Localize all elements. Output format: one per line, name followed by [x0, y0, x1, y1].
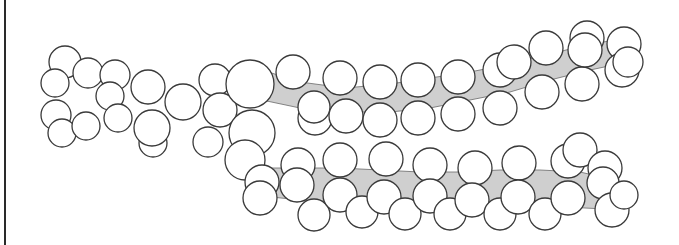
atom-sphere [502, 146, 536, 180]
atom-sphere [401, 101, 435, 135]
atom-sphere [413, 148, 447, 182]
molecule-diagram [0, 0, 679, 245]
atom-sphere [41, 69, 69, 97]
atom-sphere [369, 142, 403, 176]
atom-sphere [525, 75, 559, 109]
atom-sphere [441, 97, 475, 131]
atom-sphere [529, 31, 563, 65]
atom-sphere [134, 110, 170, 146]
atom-sphere [226, 60, 274, 108]
atom-sphere [323, 143, 357, 177]
atom-sphere [568, 33, 602, 67]
atom-sphere [458, 151, 492, 185]
space-filling-model [0, 0, 679, 245]
atom-sphere [298, 91, 330, 123]
atom-sphere [565, 67, 599, 101]
atom-sphere [401, 63, 435, 97]
atom-sphere [276, 55, 310, 89]
atom-sphere [497, 45, 531, 79]
atom-sphere [193, 127, 223, 157]
atom-sphere [551, 181, 585, 215]
atom-sphere [104, 104, 132, 132]
atom-sphere [441, 60, 475, 94]
atom-sphere [329, 99, 363, 133]
atom-sphere [613, 47, 643, 77]
atom-sphere [73, 58, 103, 88]
atom-spheres [41, 21, 643, 231]
atom-sphere [363, 65, 397, 99]
atom-sphere [243, 181, 277, 215]
atom-sphere [363, 103, 397, 137]
atom-sphere [610, 181, 638, 209]
atom-sphere [165, 84, 201, 120]
atom-sphere [280, 168, 314, 202]
atom-sphere [483, 91, 517, 125]
atom-sphere [72, 112, 100, 140]
atom-sphere [131, 70, 165, 104]
atom-sphere [323, 61, 357, 95]
